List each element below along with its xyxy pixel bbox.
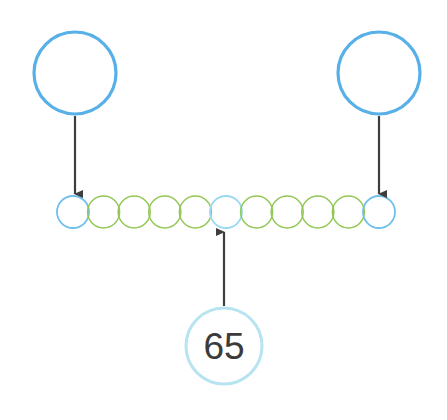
chain-node-7[interactable]	[271, 196, 303, 228]
chain-node-5[interactable]	[210, 196, 242, 228]
chain-node-3[interactable]	[149, 196, 181, 228]
chain-node-8[interactable]	[302, 196, 334, 228]
linked-list-diagram: 65	[0, 0, 447, 420]
chain-node-1[interactable]	[88, 196, 120, 228]
chain-node-10[interactable]	[363, 196, 395, 228]
chain-node-2[interactable]	[118, 196, 150, 228]
left-parent-node[interactable]	[34, 32, 116, 114]
chain-node-9[interactable]	[332, 196, 364, 228]
value-bubble-label: 65	[203, 326, 244, 367]
parent-nodes	[34, 32, 420, 114]
right-parent-node[interactable]	[338, 32, 420, 114]
chain-node-6[interactable]	[241, 196, 273, 228]
chain-node-0[interactable]	[57, 196, 89, 228]
circle-chain	[57, 196, 395, 228]
diagram-canvas: 65	[0, 0, 447, 420]
chain-node-4[interactable]	[179, 196, 211, 228]
value-bubble-group: 65	[186, 308, 262, 384]
